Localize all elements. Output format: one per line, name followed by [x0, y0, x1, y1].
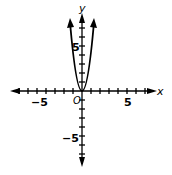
origin-label: O — [73, 95, 81, 106]
y-tick-label-5: 5 — [72, 41, 80, 54]
x-tick-label-neg5: −5 — [31, 96, 48, 109]
x-tick-label-5: 5 — [124, 96, 132, 109]
y-axis-label: y — [78, 2, 86, 15]
x-axis-left-arrow-icon — [10, 88, 20, 94]
curve-left-arrow-icon — [67, 18, 74, 28]
coordinate-plane: x y O −5 5 5 −5 — [0, 0, 172, 175]
y-axis-down-arrow-icon — [79, 157, 85, 167]
x-axis-right-arrow-icon — [147, 88, 157, 94]
x-axis-label: x — [156, 85, 164, 98]
y-tick-label-neg5: −5 — [62, 132, 79, 145]
curve-right-arrow-icon — [90, 18, 97, 28]
